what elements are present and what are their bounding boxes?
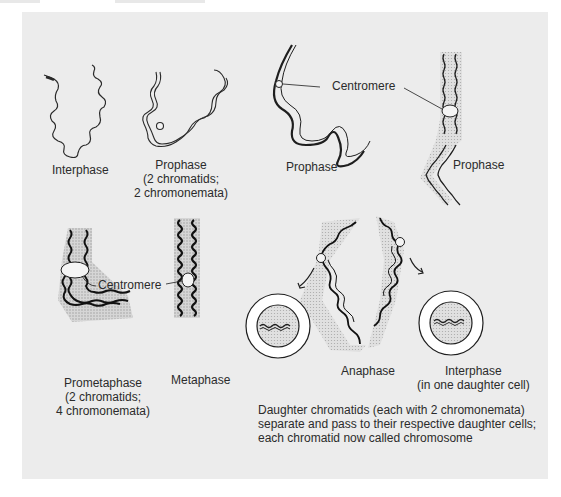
prometaphase-chromosome — [58, 228, 133, 322]
label-anaphase: Anaphase — [341, 364, 395, 378]
label-prometaphase: Prometaphase (2 chromatids; 4 chromonema… — [56, 376, 150, 418]
arrow-right-icon — [410, 258, 422, 272]
label-metaphase: Metaphase — [171, 373, 230, 387]
callout-centromere-bottom: Centromere — [98, 278, 161, 292]
caption-line: separate and pass to their respective da… — [258, 417, 536, 431]
stage-title: Prometaphase — [56, 376, 150, 390]
label-prophase-late: Prophase — [453, 158, 504, 172]
stage-subtitle: (2 chromatids; — [134, 172, 228, 186]
interphase-chromosome — [44, 65, 106, 158]
callout-centromere-top: Centromere — [332, 79, 395, 93]
stage-subtitle: 2 chromonemata) — [134, 186, 228, 200]
stage-title: Prophase — [134, 158, 228, 172]
label-prophase-early: Prophase (2 chromatids; 2 chromonemata) — [134, 158, 228, 200]
caption-line: Daughter chromatids (each with 2 chromon… — [258, 403, 536, 417]
label-prophase-mid: Prophase — [286, 160, 337, 174]
centromere-leader-line — [283, 84, 320, 87]
metaphase-chromosome — [166, 218, 200, 318]
caption-line: each chromatid now called chromosome — [258, 431, 536, 445]
label-interphase-daughter: Interphase (in one daughter cell) — [417, 364, 530, 392]
daughter-cell-left — [246, 294, 310, 358]
anaphase-caption: Daughter chromatids (each with 2 chromon… — [258, 403, 536, 445]
stage-subtitle: 4 chromonemata) — [56, 404, 150, 418]
stage-subtitle: (in one daughter cell) — [417, 378, 530, 392]
stage-title: Interphase — [417, 364, 530, 378]
prophase-early-chromosome — [143, 70, 228, 147]
prophase-late-chromosome — [404, 52, 462, 205]
daughter-cell-right — [419, 291, 483, 355]
centromere-leader-line — [404, 88, 442, 109]
stage-subtitle: (2 chromatids; — [56, 390, 150, 404]
prophase-mid-chromosome — [274, 45, 370, 166]
label-interphase: Interphase — [52, 163, 109, 177]
anaphase-chromosomes — [298, 216, 423, 352]
